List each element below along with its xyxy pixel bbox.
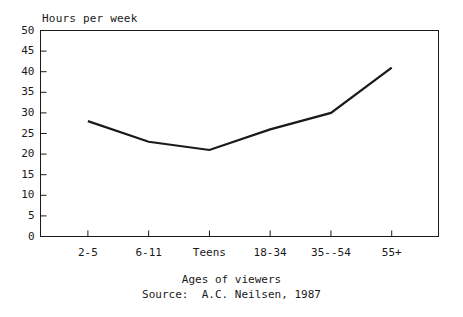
y-tick-label: 20	[11, 148, 35, 159]
x-axis-title: Ages of viewers	[0, 272, 463, 287]
y-tick-label: 10	[11, 189, 35, 200]
data-series-line	[88, 68, 392, 150]
x-tick-label: 2-5	[78, 247, 98, 258]
y-tick-label: 5	[11, 210, 35, 221]
y-tick-label: 25	[11, 128, 35, 139]
y-tick-label: 0	[11, 231, 35, 242]
y-axis-ticks	[41, 31, 47, 237]
x-tick-label: Teens	[193, 247, 226, 258]
chart-figure: Hours per week 05101520253035404550 2-56…	[0, 0, 463, 317]
y-tick-label: 35	[11, 86, 35, 97]
y-tick-label: 45	[11, 45, 35, 56]
plot-frame	[41, 31, 439, 237]
y-tick-label: 30	[11, 107, 35, 118]
x-tick-label: 6-11	[135, 247, 162, 258]
chart-caption: Ages of viewers Source: A.C. Neilsen, 19…	[0, 272, 463, 302]
plot-area	[0, 0, 463, 317]
y-tick-label: 40	[11, 66, 35, 77]
y-tick-label: 50	[11, 25, 35, 36]
y-tick-label: 15	[11, 169, 35, 180]
x-tick-label: 55+	[382, 247, 402, 258]
x-tick-label: 35--54	[311, 247, 351, 258]
x-axis-ticks	[88, 231, 392, 237]
x-tick-label: 18-34	[254, 247, 287, 258]
source-note: Source: A.C. Neilsen, 1987	[0, 287, 463, 302]
